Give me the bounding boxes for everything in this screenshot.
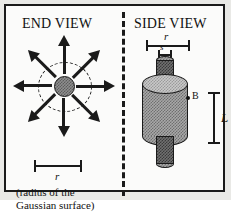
magnetic-field-label: B: [192, 90, 199, 101]
cylinder-top-ellipse: [142, 74, 188, 94]
physics-figure: END VIEW SIDE VIEW: [0, 0, 231, 200]
caption-line-2: Gaussian surface): [16, 199, 122, 200]
radius-label: r: [55, 170, 59, 182]
side-view-panel: r s B L: [124, 36, 231, 196]
length-dimension-line: [208, 92, 220, 144]
center-core: [54, 76, 75, 97]
figure-frame: END VIEW SIDE VIEW: [4, 4, 225, 192]
side-view-title: SIDE VIEW: [134, 16, 207, 32]
length-label: L: [221, 110, 228, 126]
bottom-shaft: [156, 136, 174, 164]
end-view-title: END VIEW: [22, 16, 92, 32]
end-view-panel: r (radius of the Gaussian surface): [12, 36, 120, 196]
side-radius-label: r: [164, 30, 168, 42]
shaft-label: s: [160, 42, 164, 52]
field-point-dot: [186, 96, 190, 100]
caption-line-1: (radius of the: [16, 186, 122, 199]
gaussian-caption: (radius of the Gaussian surface): [16, 186, 122, 200]
